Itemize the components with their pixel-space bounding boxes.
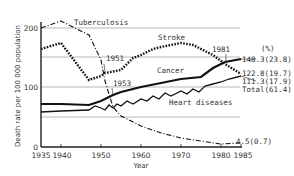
y-tick-200: 200 [24, 24, 39, 33]
label-heart-diseases: Heart diseases [169, 98, 232, 107]
chart-canvas: 200 100 0 1935 1940 1950 1960 1970 1980 … [0, 0, 294, 176]
y-axis-label: Death rate per 100 000 population [14, 25, 22, 147]
percent-header: (%) [261, 44, 275, 53]
label-stroke: Stroke [158, 33, 186, 42]
label-cancer: Cancer [157, 66, 185, 75]
end-label-cancer: 148.3(23.8) [242, 55, 292, 64]
end-label-total: Total(61.4) [242, 85, 292, 94]
x-tick-1940: 1940 [52, 151, 71, 160]
x-axis-label: Year [133, 162, 149, 170]
x-tick-1960: 1960 [131, 151, 150, 160]
annotation-1953: 1953 [113, 79, 131, 88]
y-tick-100: 100 [24, 83, 39, 92]
series-tuberculosis [41, 21, 241, 144]
annotation-1951: 1951 [106, 54, 124, 63]
x-tick-1950: 1950 [91, 151, 110, 160]
x-tick-1985: 1985 [233, 151, 252, 160]
annotation-1981: 1981 [212, 45, 230, 54]
label-tuberculosis: Tuberculosis [74, 18, 128, 27]
x-tick-1980: 1980 [211, 151, 230, 160]
x-tick-1970: 1970 [171, 151, 190, 160]
end-label-tuberculosis: 4.5(0.7) [236, 137, 272, 146]
series-stroke [41, 43, 241, 80]
x-tick-1935: 1935 [31, 151, 50, 160]
